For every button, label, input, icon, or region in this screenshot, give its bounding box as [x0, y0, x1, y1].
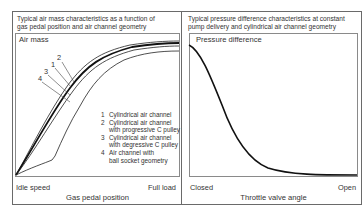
right-x-tick-max: Open: [338, 183, 356, 192]
right-x-tick-min: Closed: [190, 183, 213, 192]
pressure-difference-curve: [0, 0, 364, 219]
right-x-axis-label: Throttle valve angle: [189, 193, 358, 202]
